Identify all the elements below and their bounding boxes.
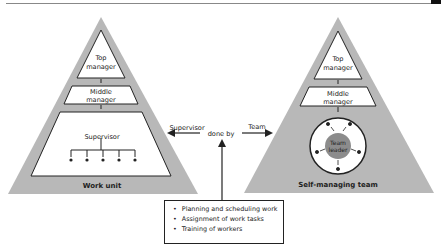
right-top-manager-label-1: Top [331, 55, 343, 63]
up-arrowhead-icon [218, 139, 226, 147]
right-middle-manager-label-2: manager [323, 98, 353, 106]
left-top-manager-label-1: Top [94, 54, 106, 62]
right-middle-manager-label-1: Middle [327, 90, 349, 98]
left-top-manager-label-2: manager [86, 63, 116, 71]
connector-team-label: Team [247, 123, 265, 131]
team-leader-label-1: Team [329, 139, 346, 146]
right-arrowhead-icon [265, 129, 273, 137]
right-top-manager-label-2: manager [323, 64, 353, 72]
team-leader-label-2: leader [328, 146, 348, 153]
task-item: Training of workers [173, 224, 283, 234]
left-middle-manager-label-1: Middle [90, 88, 112, 96]
task-item: Planning and scheduling work [173, 204, 283, 214]
connector-done-by-label: done by [208, 130, 235, 138]
self-managing-team-caption: Self-managing team [298, 181, 378, 189]
task-item: Assignment of work tasks [173, 214, 283, 224]
left-supervisor-label: Supervisor [84, 133, 120, 141]
left-middle-manager-label-2: manager [86, 96, 116, 104]
task-list-box: Planning and scheduling work Assignment … [164, 200, 284, 244]
connector-supervisor-label: Supervisor [169, 124, 205, 132]
work-unit-caption: Work unit [83, 182, 122, 190]
left-pyramid [8, 17, 198, 194]
